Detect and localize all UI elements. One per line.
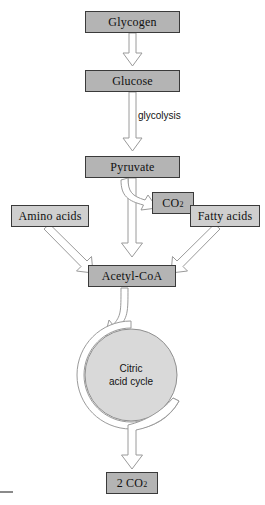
node-pyruvate[interactable]: Pyruvate: [85, 156, 180, 178]
node-two-co2[interactable]: 2 CO2: [106, 472, 158, 494]
node-amino-acids-label: Amino acids: [18, 210, 81, 222]
node-glycogen[interactable]: Glycogen: [85, 11, 180, 33]
node-acetyl-coa-label: Acetyl-CoA: [102, 270, 163, 282]
node-amino-acids[interactable]: Amino acids: [11, 205, 89, 227]
arrow-glucose-to-pyruvate: [123, 92, 142, 151]
node-acetyl-coa[interactable]: Acetyl-CoA: [88, 265, 176, 287]
cycle-label-line1: Citric: [86, 362, 176, 375]
node-two-co2-label: 2 CO: [117, 477, 143, 489]
node-pyruvate-label: Pyruvate: [110, 161, 154, 173]
node-glucose-label: Glucose: [112, 75, 153, 87]
arrow-aminoacids-to-acetylcoa: [44, 224, 93, 273]
node-fatty-acids-label: Fatty acids: [198, 210, 253, 222]
node-co2-label: CO: [162, 197, 179, 209]
node-two-co2-subscript: 2: [143, 481, 147, 489]
pathway-diagram: Glycogen Glucose glycolysis Pyruvate CO2…: [0, 0, 265, 505]
node-glycogen-label: Glycogen: [108, 16, 156, 28]
citric-acid-cycle-label: Citric acid cycle: [86, 362, 176, 388]
node-co2-subscript: 2: [179, 201, 183, 209]
glycolysis-label: glycolysis: [138, 110, 181, 121]
cycle-label-line2: acid cycle: [86, 375, 176, 388]
node-co2[interactable]: CO2: [152, 192, 194, 214]
node-fatty-acids[interactable]: Fatty acids: [190, 205, 260, 227]
arrow-glycogen-to-glucose: [123, 33, 142, 66]
node-glucose[interactable]: Glucose: [85, 70, 180, 92]
corner-tick-mark: [0, 491, 13, 493]
arrow-fattyacids-to-acetylcoa: [171, 224, 220, 273]
